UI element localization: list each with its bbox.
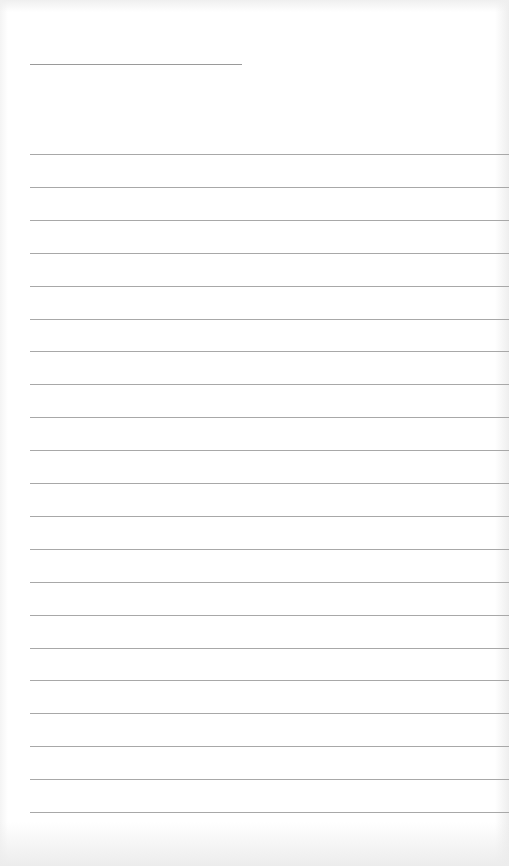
title-underline	[30, 64, 242, 65]
ruled-line	[30, 384, 509, 385]
page-bottom-shadow	[0, 822, 509, 866]
ruled-line	[30, 220, 509, 221]
ruled-line	[30, 812, 509, 813]
page-top-shadow	[0, 0, 509, 12]
ruled-line	[30, 648, 509, 649]
ruled-line	[30, 516, 509, 517]
ruled-line	[30, 187, 509, 188]
ruled-line	[30, 154, 509, 155]
lined-paper-page	[0, 0, 509, 866]
ruled-line	[30, 746, 509, 747]
ruled-line	[30, 286, 509, 287]
ruled-line	[30, 713, 509, 714]
ruled-line	[30, 549, 509, 550]
ruled-line	[30, 615, 509, 616]
ruled-line	[30, 779, 509, 780]
ruled-line	[30, 483, 509, 484]
ruled-line	[30, 582, 509, 583]
ruled-line	[30, 450, 509, 451]
ruled-line	[30, 680, 509, 681]
ruled-line	[30, 417, 509, 418]
ruled-line	[30, 351, 509, 352]
ruled-line	[30, 319, 509, 320]
ruled-line	[30, 253, 509, 254]
